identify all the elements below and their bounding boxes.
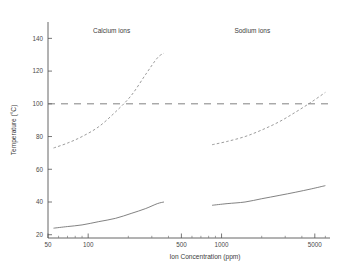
y-axis-tick-labels: 20406080100120140: [32, 35, 43, 238]
annotation-0: Calcium ions: [93, 27, 131, 34]
y-axis-ticks: [48, 38, 52, 234]
x-axis-tick-labels: 5010050010005000: [44, 241, 322, 248]
y-tick-label: 140: [32, 35, 43, 42]
series-curve-0: [54, 53, 164, 148]
x-tick-label: 100: [83, 241, 94, 248]
x-tick-label: 50: [44, 241, 52, 248]
chart-container: 20406080100120140 5010050010005000 Calci…: [0, 0, 337, 268]
x-axis-title: Ion Concentration (ppm): [169, 253, 240, 261]
x-tick-label: 5000: [308, 241, 323, 248]
y-axis: 20406080100120140: [32, 22, 52, 238]
x-tick-label: 1000: [215, 241, 230, 248]
ion-concentration-temperature-chart: 20406080100120140 5010050010005000 Calci…: [0, 0, 337, 268]
y-tick-label: 60: [36, 166, 44, 173]
x-tick-label: 500: [176, 241, 187, 248]
y-tick-label: 80: [36, 133, 44, 140]
y-axis-title: Temperature (°C): [10, 105, 18, 156]
x-axis: 5010050010005000: [44, 234, 330, 249]
y-tick-label: 20: [36, 231, 44, 238]
series-curve-1: [54, 202, 164, 228]
annotation-1: Sodium ions: [234, 27, 271, 34]
x-axis-ticks: [48, 234, 325, 239]
data-series: [54, 53, 326, 228]
series-annotations: Calcium ionsSodium ions: [93, 27, 271, 34]
y-tick-label: 120: [32, 67, 43, 74]
y-tick-label: 100: [32, 100, 43, 107]
y-tick-label: 40: [36, 198, 44, 205]
series-curve-3: [212, 186, 325, 206]
series-curve-2: [212, 92, 325, 144]
